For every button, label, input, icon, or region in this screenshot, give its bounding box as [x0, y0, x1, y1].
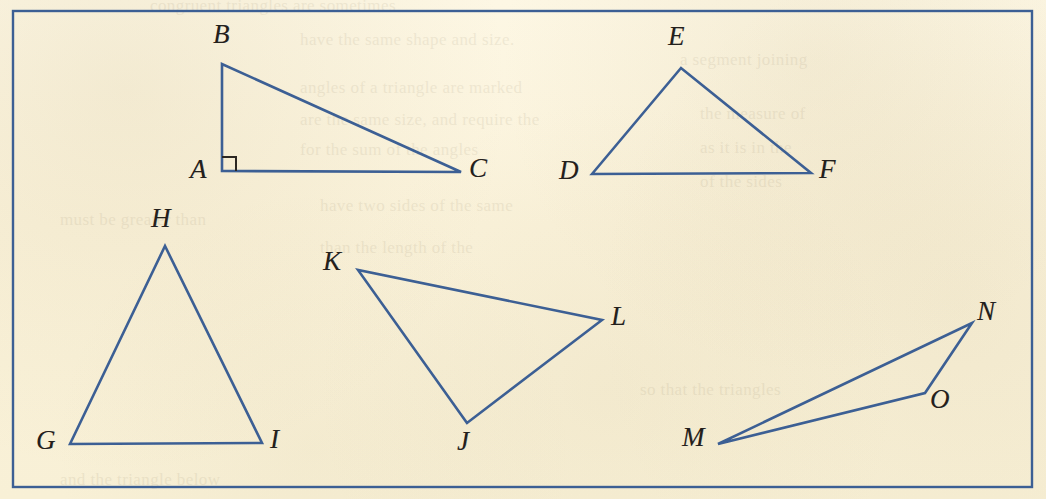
triangle-ghi — [70, 246, 262, 444]
vertex-label-i: I — [270, 426, 279, 453]
triangles-group — [70, 64, 972, 444]
vertex-label-n: N — [977, 298, 995, 325]
triangles-figure-svg — [0, 0, 1046, 499]
vertex-label-f: F — [819, 156, 836, 183]
triangle-abc — [222, 64, 461, 172]
vertex-label-j: J — [457, 428, 469, 455]
vertex-label-a: A — [190, 156, 207, 183]
right-angle-markers — [222, 157, 236, 171]
figure-page: congruent triangles are sometimeshave th… — [0, 0, 1046, 499]
vertex-label-d: D — [559, 157, 579, 184]
triangle-jkl — [358, 270, 602, 423]
vertex-label-c: C — [469, 155, 487, 182]
vertex-label-l: L — [611, 303, 626, 330]
vertex-label-h: H — [151, 205, 171, 232]
vertex-label-m: M — [682, 424, 705, 451]
vertex-label-e: E — [668, 23, 685, 50]
vertex-label-k: K — [323, 248, 341, 275]
vertex-label-b: B — [213, 21, 230, 48]
vertex-label-o: O — [930, 386, 950, 413]
right-angle-marker-a — [222, 157, 236, 171]
vertex-label-g: G — [36, 427, 56, 454]
triangle-def — [592, 68, 811, 174]
